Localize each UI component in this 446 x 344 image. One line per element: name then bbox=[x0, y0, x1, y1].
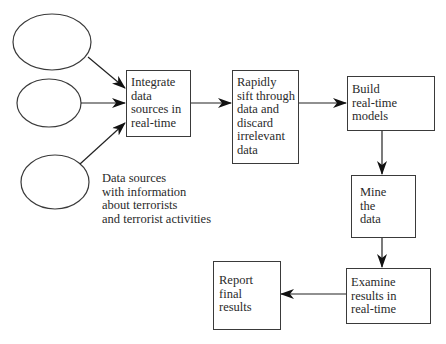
step-report-box: Report final results bbox=[213, 261, 281, 330]
caption-line: and terrorist activities bbox=[102, 213, 211, 227]
step-line: sources in bbox=[131, 103, 186, 117]
step-line: Mine bbox=[360, 186, 411, 200]
data-source-ellipse-3 bbox=[21, 155, 89, 209]
step-line: data bbox=[131, 90, 186, 104]
caption-line: with information bbox=[102, 186, 211, 200]
data-sources-caption: Data sources with information about terr… bbox=[102, 172, 211, 226]
data-source-ellipse-2 bbox=[17, 79, 81, 127]
step-integrate-box: Integrate data sources in real-time bbox=[126, 70, 191, 137]
caption-line: about terrorists bbox=[102, 199, 211, 213]
step-line: results in bbox=[351, 290, 426, 304]
step-line: data bbox=[360, 213, 411, 227]
arrow-source1-to-integrate bbox=[88, 57, 125, 88]
step-line: results bbox=[219, 301, 276, 315]
step-mine-box: Mine the data bbox=[351, 175, 416, 238]
step-line: Integrate bbox=[131, 76, 186, 90]
data-source-ellipse-1 bbox=[13, 14, 91, 70]
step-examine-box: Examine results in real-time bbox=[346, 268, 431, 324]
step-line: real-time bbox=[131, 117, 186, 131]
step-line: Rapidly bbox=[237, 76, 294, 90]
step-line: data bbox=[237, 144, 294, 158]
step-line: Examine bbox=[351, 276, 426, 290]
step-line: Report bbox=[219, 274, 276, 288]
step-line: Build bbox=[352, 83, 430, 97]
step-line: models bbox=[352, 110, 430, 124]
step-line: real-time bbox=[351, 303, 426, 317]
step-sift-box: Rapidly sift through data and discard ir… bbox=[232, 70, 299, 164]
step-line: final bbox=[219, 288, 276, 302]
step-line: irrelevant bbox=[237, 130, 294, 144]
step-build-box: Build real-time models bbox=[347, 76, 435, 131]
step-line: discard bbox=[237, 117, 294, 131]
step-line: sift through bbox=[237, 90, 294, 104]
step-line: real-time bbox=[352, 97, 430, 111]
arrow-source3-to-integrate bbox=[80, 123, 125, 164]
step-line: data and bbox=[237, 103, 294, 117]
step-line: the bbox=[360, 200, 411, 214]
caption-line: Data sources bbox=[102, 172, 211, 186]
